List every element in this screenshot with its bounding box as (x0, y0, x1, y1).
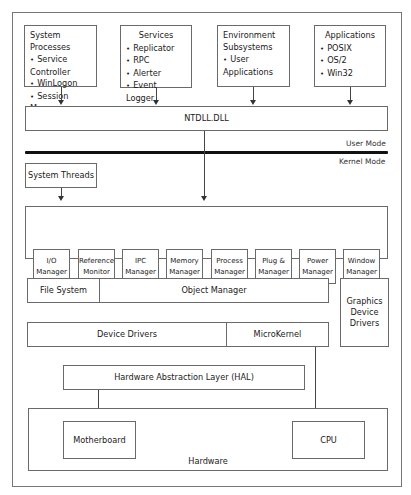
object-manager-label: Object Manager (181, 285, 246, 296)
list-item: User Applications (223, 54, 284, 78)
cpu-label: CPU (320, 435, 337, 446)
graphics-device-drivers-box: GraphicsDeviceDrivers (340, 278, 389, 347)
manager-label: I/O (47, 257, 57, 265)
graphics-label-3: Drivers (350, 318, 379, 328)
manager-label: Power (307, 257, 328, 265)
manager-label: Manager (302, 268, 333, 276)
manager-label: Reference (79, 257, 114, 265)
user-mode-label: User Mode (346, 139, 386, 148)
arrow-down-icon (201, 196, 207, 201)
manager-label: IPC (135, 257, 146, 265)
arrow-down-icon (250, 100, 256, 105)
manager-label: Manager (346, 268, 377, 276)
manager-label: Monitor (83, 268, 110, 276)
environment-subsystems-box: Environment Subsystems User Applications (217, 25, 290, 87)
device-drivers-cell: Device Drivers (28, 323, 226, 346)
list-item: POSIX (320, 43, 380, 56)
arrow-down-icon (58, 196, 64, 201)
list-item: Win32 (320, 68, 380, 81)
file-system-object-manager-row: File System Object Manager (27, 278, 329, 303)
manager-label: Process (216, 257, 243, 265)
list-item: Replicator (126, 43, 186, 56)
cpu-box: CPU (292, 421, 365, 459)
connector-line (315, 347, 316, 415)
manager-label: Window (348, 257, 376, 265)
mode-boundary-line (25, 151, 388, 154)
motherboard-box: Motherboard (63, 421, 136, 459)
manager-label: Manager (258, 268, 289, 276)
connector-line (253, 87, 254, 101)
list-item: OS/2 (320, 55, 380, 68)
object-manager-cell: Object Manager (100, 279, 328, 302)
file-system-cell: File System (28, 279, 99, 302)
list-item: Alerter (126, 68, 186, 81)
connector-line (61, 87, 62, 101)
services-box: Services Replicator RPC Alerter Event Lo… (120, 25, 192, 88)
manager-label: Manager (169, 268, 200, 276)
microkernel-label: MicroKernel (254, 329, 302, 340)
device-drivers-label: Device Drivers (97, 329, 157, 340)
manager-label: Manager (125, 268, 156, 276)
connector-line (350, 87, 351, 101)
applications-list: POSIX OS/2 Win32 (320, 43, 380, 81)
graphics-label-2: Device (350, 307, 378, 317)
file-system-label: File System (40, 285, 87, 296)
environment-subsystems-list: User Applications (223, 54, 284, 78)
motherboard-label: Motherboard (73, 435, 126, 446)
manager-label: Plug & (262, 257, 285, 265)
system-processes-title: System Processes (30, 30, 91, 53)
system-threads-box: System Threads (25, 163, 97, 188)
microkernel-cell: MicroKernel (227, 323, 328, 346)
list-item: RPC (126, 55, 186, 68)
services-title: Services (126, 30, 186, 42)
graphics-label-1: Graphics (346, 296, 382, 306)
hal-label: Hardware Abstraction Layer (HAL) (114, 372, 254, 383)
environment-subsystems-title-2: Subsystems (223, 42, 284, 54)
ntdll-label: NTDLL.DLL (184, 113, 229, 124)
manager-label: Manager (36, 268, 67, 276)
manager-label: Memory (170, 257, 198, 265)
arrow-down-icon (58, 100, 64, 105)
system-threads-label: System Threads (28, 170, 94, 181)
system-processes-box: System Processes Service Controller WinL… (24, 25, 97, 87)
arrow-down-icon (347, 100, 353, 105)
list-item: Service Controller (30, 54, 91, 78)
connector-line (204, 131, 205, 197)
environment-subsystems-title-1: Environment (223, 30, 284, 42)
applications-box: Applications POSIX OS/2 Win32 (314, 25, 386, 87)
applications-title: Applications (320, 30, 380, 42)
kernel-mode-label: Kernel Mode (339, 157, 385, 166)
hal-box: Hardware Abstraction Layer (HAL) (63, 365, 305, 390)
arrow-down-icon (153, 100, 159, 105)
ntdll-box: NTDLL.DLL (25, 106, 388, 131)
manager-label: Manager (214, 268, 245, 276)
device-drivers-microkernel-row: Device Drivers MicroKernel (27, 322, 329, 347)
